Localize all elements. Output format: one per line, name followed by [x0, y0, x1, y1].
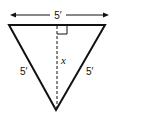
triangle-diagram: 5′ x 5′ 5′ [0, 0, 141, 125]
width-dimension-arrow: 5′ [10, 10, 109, 21]
top-width-label: 5′ [54, 10, 62, 21]
left-side-label: 5′ [20, 66, 28, 77]
arrowhead-right-icon [103, 13, 109, 18]
right-angle-marker-icon [57, 26, 67, 34]
right-side-label: 5′ [86, 66, 94, 77]
arrowhead-left-icon [10, 13, 16, 18]
altitude-label: x [60, 54, 66, 66]
